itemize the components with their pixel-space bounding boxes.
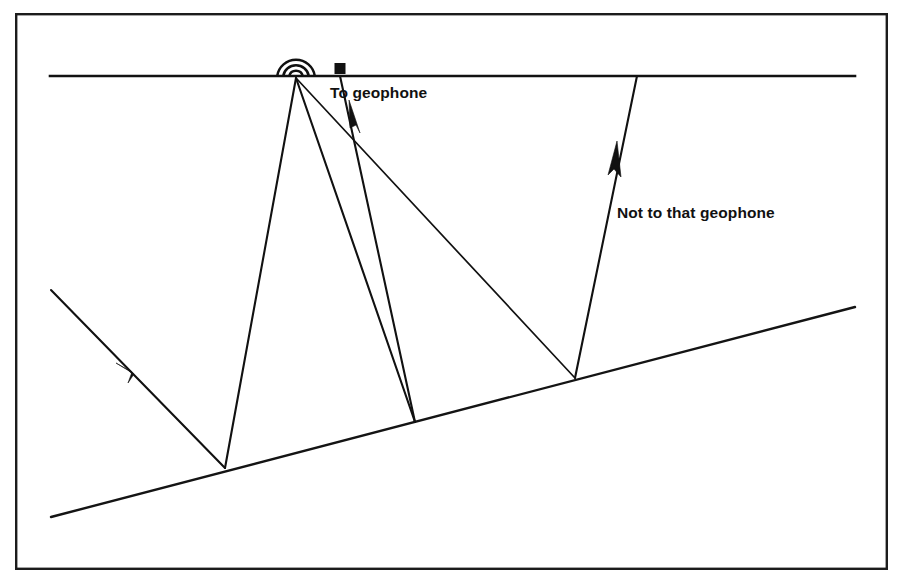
ray-downgoing-right [296,78,575,378]
ray-downgoing-left [225,78,296,468]
ray-reflected-up-right [575,76,637,378]
figure-border [16,14,887,569]
arrowhead-not-to-geophone [608,141,621,177]
label-not-to-that-geophone: Not to that geophone [617,205,775,221]
diagram-canvas [0,0,906,588]
source-wave-icon [277,60,315,76]
ray-reflected-up-to-geophone [340,76,415,422]
label-to-geophone: To geophone [330,85,427,101]
seismic-ray-diagram: To geophone Not to that geophone [0,0,906,588]
ray-downgoing-middle [296,78,415,422]
geophone-marker [335,64,345,74]
ray-reflected-up-left [51,290,225,468]
